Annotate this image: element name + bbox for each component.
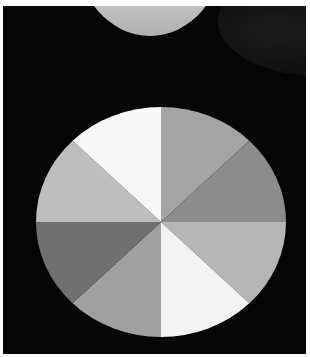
pie-print bbox=[33, 107, 289, 343]
tshirt-photo bbox=[3, 6, 306, 354]
neck-skin bbox=[75, 6, 225, 36]
pie-graphic bbox=[33, 107, 289, 343]
shoulder-fold bbox=[218, 6, 306, 76]
